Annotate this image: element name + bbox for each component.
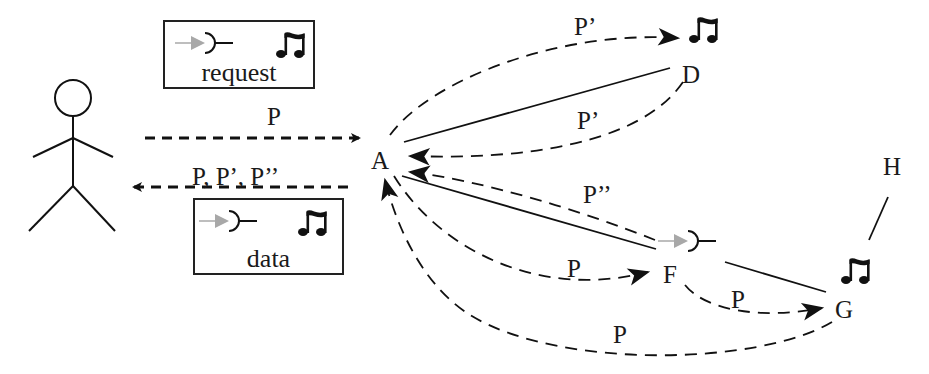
node-label-a: A: [371, 148, 389, 173]
edge-label-a-to-user: P, P’, P’’: [192, 164, 279, 189]
legend-data-box: data: [193, 198, 344, 275]
edge-label-f-to-a: P’’: [583, 182, 612, 207]
network-diagram: [0, 0, 929, 374]
music-note-icon: [689, 17, 718, 43]
edge-label-g-to-a: P: [613, 322, 627, 347]
interface-socket-icon: [658, 231, 716, 251]
network-links: [402, 68, 888, 292]
user-actor-icon: [29, 80, 115, 231]
edge-label-a-to-d: P’: [574, 14, 596, 39]
legend-data-icons: [199, 206, 349, 242]
legend-request-label: request: [165, 58, 313, 88]
edge-label-a-to-f: P: [567, 256, 581, 281]
music-note-icon: [841, 258, 870, 284]
node-label-g: G: [835, 297, 853, 322]
edge-label-user-to-a: P: [267, 104, 281, 129]
legend-request-box: request: [163, 20, 315, 89]
edge-label-f-to-g: P: [731, 287, 745, 312]
node-label-f: F: [663, 262, 677, 287]
node-label-h: H: [883, 154, 901, 179]
legend-data-label: data: [195, 244, 342, 274]
edge-label-d-to-a: P’: [577, 108, 599, 133]
node-label-d: D: [682, 62, 700, 87]
